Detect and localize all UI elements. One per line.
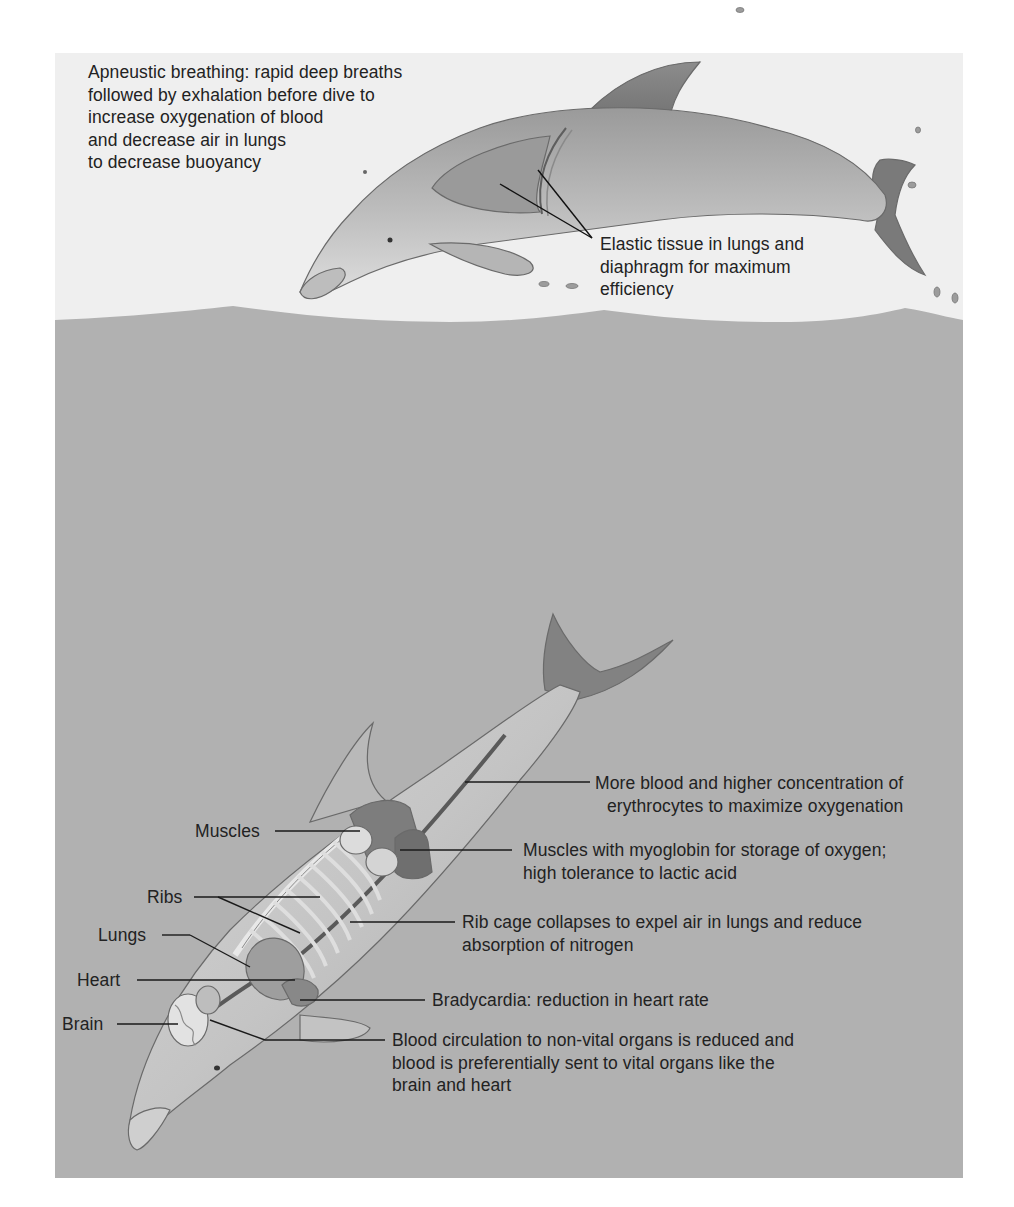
myoglobin-label: Muscles with myoglobin for storage of ox… [523,839,886,884]
rib-cage-collapse-label: Rib cage collapses to expel air in lungs… [462,911,862,956]
bradycardia-label: Bradycardia: reduction in heart rate [432,989,709,1012]
muscles-label: Muscles [195,820,260,843]
illustration [0,0,1014,1207]
heart-label: Heart [77,969,120,992]
dolphin-diving-adaptations-figure: Apneustic breathing: rapid deep breaths … [0,0,1014,1207]
brain-label: Brain [62,1013,103,1036]
ribs-label: Ribs [147,886,182,909]
apneustic-breathing-label: Apneustic breathing: rapid deep breaths … [88,61,402,174]
elastic-tissue-label: Elastic tissue in lungs and diaphragm fo… [600,233,804,301]
blood-circulation-label: Blood circulation to non-vital organs is… [392,1029,794,1097]
lungs-label: Lungs [98,924,146,947]
blood-erythrocytes-label: More blood and higher concentration of e… [595,772,903,817]
